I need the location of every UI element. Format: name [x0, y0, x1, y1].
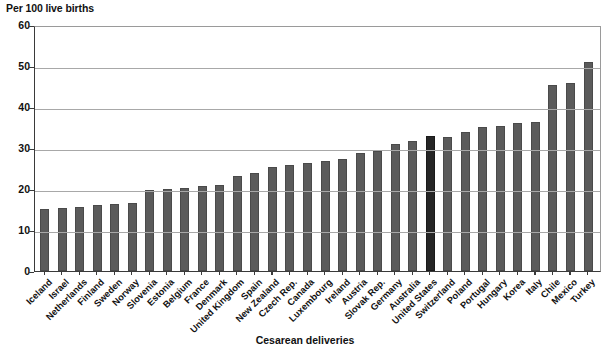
- y-tick-label: 10: [6, 224, 30, 236]
- y-tick-label: 20: [6, 183, 30, 195]
- bar-belgium: [180, 188, 189, 271]
- bar-series: [35, 27, 600, 271]
- x-tick-mark: [429, 272, 430, 275]
- bar-australia: [408, 141, 417, 271]
- x-tick-mark: [184, 272, 185, 275]
- gridline: [35, 68, 600, 69]
- bar-slovenia: [145, 190, 154, 271]
- x-axis-title: Cesarean deliveries: [0, 334, 610, 346]
- x-tick-mark: [412, 272, 413, 275]
- x-tick-mark: [464, 272, 465, 275]
- x-tick-mark: [96, 272, 97, 275]
- bar-italy: [531, 122, 540, 271]
- bar-korea: [513, 123, 522, 271]
- x-tick-mark: [499, 272, 500, 275]
- x-tick-mark: [114, 272, 115, 275]
- bar-estonia: [163, 189, 172, 271]
- plot-area: [34, 26, 601, 272]
- bar-united-states: [426, 136, 435, 271]
- bar-canada: [303, 163, 312, 271]
- x-tick-mark: [44, 272, 45, 275]
- bar-netherlands: [75, 207, 84, 271]
- x-tick-mark: [254, 272, 255, 275]
- y-axis-title: Per 100 live births: [6, 2, 94, 14]
- x-tick-mark: [587, 272, 588, 275]
- bar-germany: [391, 144, 400, 272]
- gridline: [35, 232, 600, 233]
- x-tick-mark: [569, 272, 570, 275]
- x-tick-mark: [552, 272, 553, 275]
- bar-france: [198, 186, 207, 271]
- bar-norway: [128, 203, 137, 271]
- bar-denmark: [215, 185, 224, 272]
- y-tick-label: 0: [6, 265, 30, 277]
- x-tick-mark: [79, 272, 80, 275]
- x-tick-mark: [201, 272, 202, 275]
- x-tick-mark: [271, 272, 272, 275]
- x-tick-mark: [534, 272, 535, 275]
- x-tick-mark: [394, 272, 395, 275]
- x-tick-mark: [61, 272, 62, 275]
- bar-turkey: [584, 62, 593, 271]
- bar-luxembourg: [321, 161, 330, 271]
- bar-czech-rep: [285, 165, 294, 271]
- bar-poland: [461, 132, 470, 271]
- bar-portugal: [478, 127, 487, 271]
- x-tick-mark: [307, 272, 308, 275]
- x-tick-mark: [447, 272, 448, 275]
- bar-finland: [93, 205, 102, 271]
- bar-switzerland: [443, 137, 452, 272]
- bar-hungary: [496, 126, 505, 271]
- bar-ireland: [338, 159, 347, 271]
- x-tick-mark: [289, 272, 290, 275]
- bar-new-zealand: [268, 167, 277, 271]
- x-tick-mark: [324, 272, 325, 275]
- x-tick-mark: [219, 272, 220, 275]
- gridline: [35, 191, 600, 192]
- y-tick-label: 60: [6, 19, 30, 31]
- x-tick-mark: [342, 272, 343, 275]
- y-tick-label: 40: [6, 101, 30, 113]
- bar-iceland: [40, 209, 49, 271]
- bar-slovak-rep: [373, 151, 382, 271]
- x-tick-mark: [359, 272, 360, 275]
- bar-sweden: [110, 204, 119, 271]
- bar-austria: [356, 153, 365, 271]
- gridline: [35, 109, 600, 110]
- y-tick-mark: [29, 272, 34, 273]
- y-tick-label: 50: [6, 60, 30, 72]
- x-tick-mark: [131, 272, 132, 275]
- y-tick-label: 30: [6, 142, 30, 154]
- bar-chile: [548, 85, 557, 272]
- bar-spain: [250, 173, 259, 271]
- x-tick-mark: [236, 272, 237, 275]
- x-tick-mark: [149, 272, 150, 275]
- cesarean-deliveries-bar-chart: Per 100 live births 0102030405060 Icelan…: [0, 0, 610, 352]
- x-tick-mark: [377, 272, 378, 275]
- bar-mexico: [566, 83, 575, 271]
- bar-israel: [58, 208, 67, 271]
- x-tick-mark: [166, 272, 167, 275]
- x-tick-mark: [482, 272, 483, 275]
- x-tick-mark: [517, 272, 518, 275]
- gridline: [35, 150, 600, 151]
